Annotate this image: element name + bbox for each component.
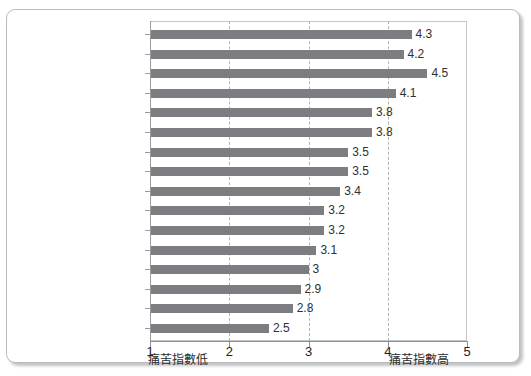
bar	[150, 89, 396, 98]
bar-value-label: 3.5	[352, 165, 369, 177]
bar-value-label: 3.5	[352, 146, 369, 158]
axis-caption-high: 痛苦指數高	[389, 353, 449, 367]
bar-value-label: 3.8	[376, 106, 393, 118]
value-axis-tick-label: 5	[463, 345, 470, 359]
bar	[150, 108, 372, 117]
bar	[150, 324, 269, 333]
bar	[150, 265, 309, 274]
bar	[150, 206, 324, 215]
bar	[150, 128, 372, 137]
bar	[150, 187, 340, 196]
bar	[150, 50, 404, 59]
bar	[150, 167, 348, 176]
bar-value-label: 2.9	[305, 283, 322, 295]
value-axis-tick-label: 2	[226, 345, 233, 359]
category-axis-line	[150, 21, 151, 341]
bar-value-label: 4.1	[400, 87, 417, 99]
bar-value-label: 2.5	[273, 322, 290, 334]
bar-value-label: 4.2	[408, 48, 425, 60]
bar	[150, 30, 412, 39]
bar-value-label: 2.8	[297, 302, 314, 314]
bar	[150, 304, 293, 313]
bar-value-label: 3	[313, 263, 320, 275]
bar-value-label: 3.2	[328, 224, 345, 236]
bar-value-label: 3.4	[344, 185, 361, 197]
axis-caption-low: 痛苦指數低	[148, 353, 208, 367]
value-axis-tick-label: 3	[305, 345, 312, 359]
bar	[150, 285, 301, 294]
bar-value-label: 3.2	[328, 204, 345, 216]
plot-area: 4.34.24.54.13.83.83.53.53.43.23.23.132.9…	[150, 21, 467, 341]
bar-value-label: 3.8	[376, 126, 393, 138]
bar	[150, 148, 348, 157]
bar-value-label: 4.3	[416, 28, 433, 40]
bar	[150, 226, 324, 235]
bar-value-label: 3.1	[320, 244, 337, 256]
bar	[150, 246, 316, 255]
bar-value-label: 4.5	[431, 67, 448, 79]
chart-card: 4.34.24.54.13.83.83.53.53.43.23.23.132.9…	[6, 9, 520, 363]
bar	[150, 69, 427, 78]
